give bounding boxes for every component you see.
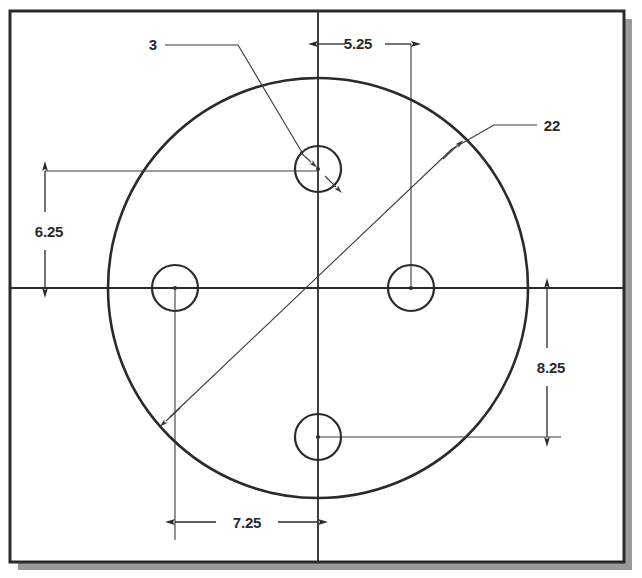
technical-drawing: 5.25 6.25 8.25 7.25 3	[0, 0, 642, 578]
leader-22-label: 22	[544, 117, 561, 134]
dimension-7-25-label: 7.25	[233, 514, 261, 531]
dimension-5-25-label: 5.25	[344, 35, 372, 52]
dimension-8-25-label: 8.25	[537, 359, 565, 376]
dimension-6-25-label: 6.25	[35, 223, 63, 240]
drawing-frame	[10, 11, 624, 562]
leader-3-label: 3	[149, 36, 157, 53]
drawing-canvas: 5.25 6.25 8.25 7.25 3	[0, 0, 642, 578]
top-hole-center-mark	[316, 167, 320, 171]
